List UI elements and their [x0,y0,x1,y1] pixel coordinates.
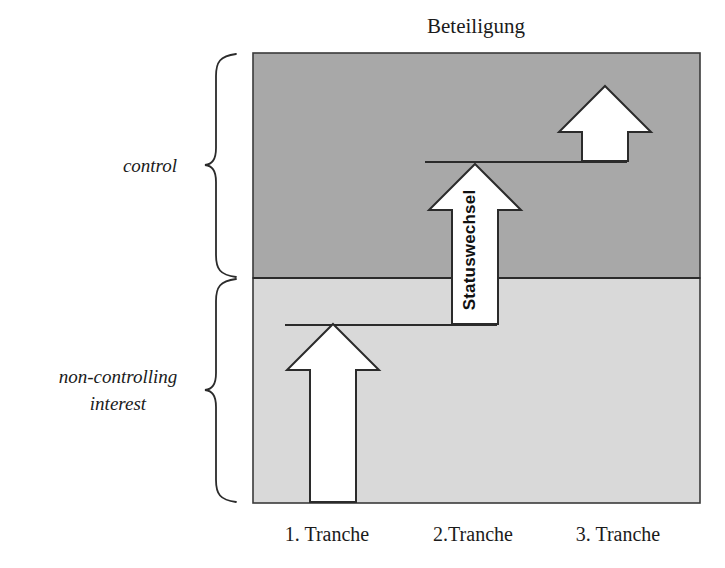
beteiligung-tranche-diagram: Beteiligung Statuswechsel c [0,0,725,568]
region-braces [205,54,236,502]
axis-label-tranche-1: 1. Tranche [285,523,370,545]
statuswechsel-label: Statuswechsel [460,190,479,311]
axis-label-tranche-2: 2.Tranche [433,523,513,545]
control-brace [205,54,236,277]
non-controlling-interest-label-line1: non-controlling [59,366,178,387]
control-label: control [123,155,177,176]
category-axis-labels: 1. Tranche 2.Tranche 3. Tranche [285,523,661,545]
chart-title: Beteiligung [427,14,525,38]
axis-label-tranche-3: 3. Tranche [576,523,661,545]
non-controlling-interest-label-line2: interest [90,393,147,414]
diagram-canvas: Beteiligung Statuswechsel c [0,0,725,568]
non-controlling-interest-brace [205,279,236,502]
